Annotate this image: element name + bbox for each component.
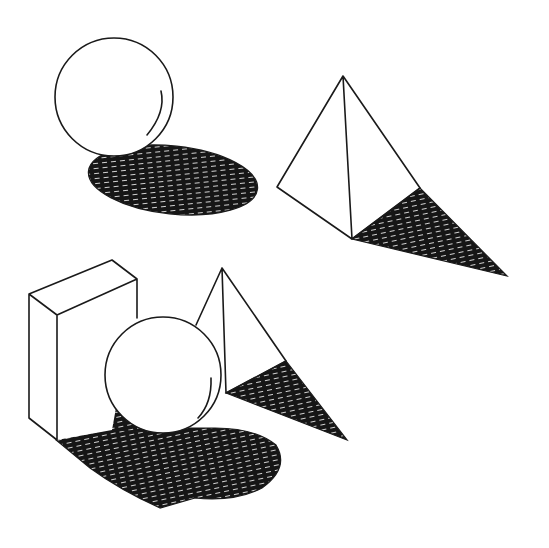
sketch-canvas bbox=[0, 0, 549, 548]
pyramid-with-shadow bbox=[277, 76, 507, 276]
combined-shadow bbox=[56, 425, 281, 508]
still-life-composition bbox=[29, 260, 347, 508]
pyramid-shadow bbox=[352, 188, 507, 276]
sphere-2 bbox=[105, 317, 221, 433]
pyramid-2-shadow bbox=[226, 361, 347, 440]
sphere-with-shadow bbox=[55, 38, 261, 223]
sphere bbox=[55, 38, 173, 156]
